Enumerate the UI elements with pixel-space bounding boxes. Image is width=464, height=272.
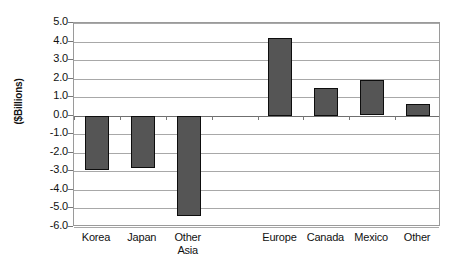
x-axis-tick-label: Mexico xyxy=(348,231,394,244)
gridline xyxy=(74,190,439,191)
x-axis-tick-label-line: Other xyxy=(394,231,440,244)
gridline xyxy=(74,227,439,228)
category-axis-tick xyxy=(74,116,75,120)
bar xyxy=(177,116,201,216)
bar xyxy=(268,38,292,116)
y-axis-tick-label: 0.0 xyxy=(26,108,68,120)
gridline xyxy=(74,134,439,135)
y-axis-tick-label: 1.0 xyxy=(26,89,68,101)
x-axis-tick-label: Korea xyxy=(73,231,119,244)
bar xyxy=(406,104,430,116)
x-axis-tick-label-line: Other xyxy=(165,231,211,244)
x-axis-tick-label-line: Mexico xyxy=(348,231,394,244)
gridline xyxy=(74,60,439,61)
y-axis-tick-label: 2.0 xyxy=(26,71,68,83)
y-axis-tick-label: -3.0 xyxy=(26,163,68,175)
category-axis-tick xyxy=(349,116,350,120)
gridline xyxy=(74,42,439,43)
x-axis-tick-label-line: Europe xyxy=(257,231,303,244)
gridline xyxy=(74,208,439,209)
gridline xyxy=(74,23,439,24)
y-axis-tick-label: -4.0 xyxy=(26,182,68,194)
y-axis-tick-label: 3.0 xyxy=(26,52,68,64)
plot-area xyxy=(73,22,440,226)
category-axis-tick xyxy=(303,116,304,120)
bar xyxy=(314,88,338,116)
x-axis-tick-label-line: Korea xyxy=(73,231,119,244)
bar xyxy=(85,116,109,170)
bar xyxy=(131,116,155,168)
y-axis-tick-label: -6.0 xyxy=(26,219,68,231)
category-axis-tick xyxy=(212,116,213,120)
x-axis-tick-label-line: Asia xyxy=(165,244,211,257)
x-axis-tick-label: Canada xyxy=(302,231,348,244)
gridline xyxy=(74,171,439,172)
y-axis-tick-label: -5.0 xyxy=(26,200,68,212)
x-axis-tick-label: Other xyxy=(394,231,440,244)
y-axis-title: ($Billions) xyxy=(13,42,24,162)
category-axis-tick xyxy=(258,116,259,120)
x-axis-tick-label: Europe xyxy=(257,231,303,244)
bar xyxy=(360,80,384,115)
x-axis-tick-label: OtherAsia xyxy=(165,231,211,257)
y-axis-tick-label: 5.0 xyxy=(26,15,68,27)
gridline xyxy=(74,79,439,80)
gridline xyxy=(74,153,439,154)
category-axis-tick xyxy=(395,116,396,120)
x-axis-tick-label-line: Japan xyxy=(119,231,165,244)
x-axis-tick-label: Japan xyxy=(119,231,165,244)
zero-line xyxy=(74,116,439,117)
category-axis-tick xyxy=(120,116,121,120)
category-axis-tick xyxy=(166,116,167,120)
y-axis-tick-label: -1.0 xyxy=(26,126,68,138)
y-axis-tick-mark xyxy=(68,226,73,227)
x-axis-tick-label-line: Canada xyxy=(302,231,348,244)
y-axis-tick-label: 4.0 xyxy=(26,34,68,46)
y-axis-tick-label: -2.0 xyxy=(26,145,68,157)
gridline xyxy=(74,97,439,98)
chart-figure: ($Billions) 5.04.03.02.01.00.0-1.0-2.0-3… xyxy=(0,0,464,272)
